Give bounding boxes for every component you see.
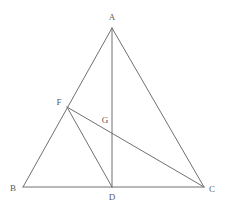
vertex-label-A: A <box>109 13 116 22</box>
vertex-label-F: F <box>56 98 61 107</box>
vertex-label-G: G <box>102 116 109 125</box>
figure-canvas <box>0 0 225 209</box>
vertex-label-D: D <box>109 193 116 202</box>
vertex-label-B: B <box>10 184 16 193</box>
segment-layer <box>23 28 204 187</box>
segment-AC <box>112 28 204 187</box>
vertex-label-C: C <box>209 185 215 194</box>
segment-FC <box>67 107 204 187</box>
geometry-figure: A B C D F G <box>0 0 225 209</box>
